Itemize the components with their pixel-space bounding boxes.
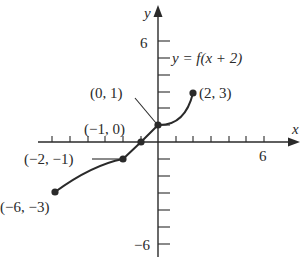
x-tick-label-6: 6 — [259, 148, 267, 164]
axes — [38, 12, 292, 257]
label-point-2-3: (2, 3) — [199, 85, 232, 102]
y-axis-arrow-icon — [154, 5, 163, 17]
point-0-1 — [154, 121, 161, 128]
point-neg1-0 — [137, 138, 144, 145]
label-point-neg1-0: (−1, 0) — [84, 121, 125, 138]
y-axis-label: y — [142, 5, 151, 21]
x-axis-label: x — [291, 121, 299, 137]
label-point-neg2-neg1: (−2, −1) — [24, 151, 73, 168]
point-neg2-neg1 — [119, 155, 126, 162]
point-neg6-neg3 — [51, 188, 58, 195]
y-tick-label-neg6: −6 — [134, 237, 150, 253]
point-2-3 — [189, 89, 196, 96]
label-point-0-1: (0, 1) — [90, 85, 123, 102]
function-label: y = f(x + 2) — [170, 50, 242, 67]
x-axis-arrow-icon — [288, 138, 300, 147]
label-point-neg6-neg3: (−6, −3) — [0, 199, 49, 216]
y-tick-label-6: 6 — [140, 35, 148, 51]
graph: y x 6 −6 6 y = f(x + 2) (−6, −3) (−2, −1… — [0, 0, 303, 257]
